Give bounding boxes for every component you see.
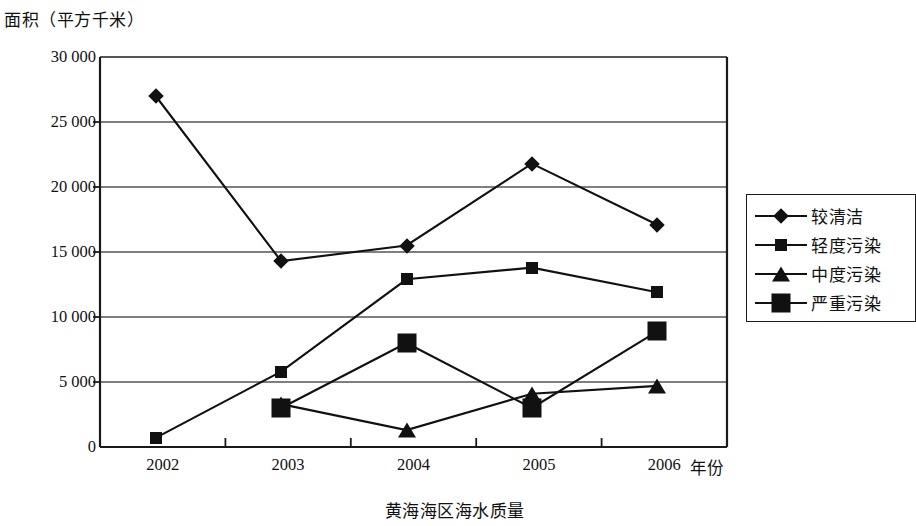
legend-item-1: 轻度污染 — [747, 230, 915, 259]
x-tick-label: 2005 — [522, 455, 555, 475]
marker-square-small-icon — [526, 262, 538, 274]
legend-label: 严重污染 — [811, 290, 881, 315]
marker-square-small-icon — [150, 432, 162, 444]
legend-item-0: 较清洁 — [747, 201, 915, 230]
legend-item-3: 严重污染 — [747, 288, 915, 317]
marker-square-large-icon — [272, 399, 291, 418]
x-tick-label: 2003 — [272, 455, 305, 475]
marker-triangle-icon — [398, 423, 416, 438]
marker-square-large-icon — [648, 322, 667, 341]
marker-square-small-icon — [401, 273, 413, 285]
marker-diamond-icon — [399, 238, 415, 254]
marker-diamond-icon — [650, 217, 666, 233]
legend-marker-square-large-icon — [755, 293, 807, 313]
marker-triangle-icon — [648, 378, 666, 393]
x-tick-label: 2006 — [648, 455, 681, 475]
marker-diamond-icon — [148, 88, 164, 104]
marker-square-small-icon — [651, 286, 663, 298]
x-axis-title: 年份 — [690, 455, 724, 479]
marker-square-small-icon — [275, 366, 287, 378]
legend: 较清洁 轻度污染 中度污染 严重污染 — [746, 194, 916, 322]
legend-marker-diamond-icon — [755, 206, 807, 226]
x-tick-label: 2002 — [146, 455, 179, 475]
marker-diamond-icon — [524, 156, 540, 172]
legend-marker-triangle-icon — [755, 264, 807, 284]
legend-label: 较清洁 — [811, 203, 864, 228]
legend-marker-square-small-icon — [755, 235, 807, 255]
marker-diamond-icon — [273, 253, 289, 269]
legend-label: 轻度污染 — [811, 232, 881, 257]
marker-square-large-icon — [522, 399, 541, 418]
chart-title: 黄海海区海水质量 — [0, 497, 909, 522]
x-tick-label: 2004 — [397, 455, 430, 475]
legend-item-2: 中度污染 — [747, 259, 915, 288]
marker-square-large-icon — [397, 334, 416, 353]
legend-label: 中度污染 — [811, 261, 881, 286]
